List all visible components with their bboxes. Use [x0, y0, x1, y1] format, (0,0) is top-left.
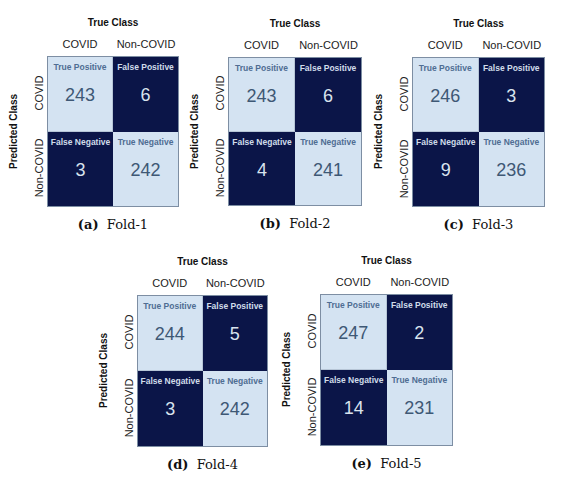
row-label-covid: COVID: [123, 297, 135, 367]
true-class-axis-title: True Class: [228, 18, 362, 29]
predicted-class-axis-title: Predicted Class: [373, 82, 384, 182]
cell-value: 3: [479, 86, 545, 107]
predicted-class-axis-title: Predicted Class: [8, 81, 19, 181]
panel-caption: (e) Fold-5: [320, 456, 453, 471]
cell-tag: False Positive: [387, 300, 453, 310]
cell-tag: True Negative: [387, 375, 453, 385]
cell-value: 3: [138, 399, 203, 420]
true-class-axis-title: True Class: [137, 256, 268, 267]
cell-false-positive: False Positive 6: [113, 57, 178, 132]
true-class-axis-title: True Class: [412, 18, 545, 29]
column-label-non-covid: Non-COVID: [479, 39, 546, 51]
cell-true-negative: True Negative 242: [113, 132, 178, 207]
caption-letter: (d): [167, 457, 188, 472]
cell-tag: False Positive: [203, 301, 268, 311]
cell-value: 4: [229, 160, 295, 181]
confusion-matrix-grid: True Positive 244 False Positive 5 False…: [137, 295, 268, 447]
row-label-non-covid: Non-COVID: [33, 133, 45, 203]
cell-false-positive: False Positive 2: [387, 295, 453, 370]
cell-tag: True Negative: [479, 137, 545, 147]
cell-false-positive: False Positive 3: [479, 58, 545, 132]
cell-false-negative: False Negative 3: [48, 132, 113, 207]
panel-caption: (c) Fold-3: [412, 217, 545, 232]
cell-value: 242: [203, 399, 268, 420]
caption-letter: (e): [351, 456, 372, 471]
cell-tag: True Positive: [138, 301, 202, 311]
panel-caption: (b) Fold-2: [228, 216, 362, 231]
cell-tag: True Negative: [203, 376, 268, 386]
cell-false-negative: False Negative 14: [321, 370, 387, 445]
cell-true-negative: True Negative 231: [387, 370, 453, 445]
cell-true-positive: True Positive 243: [48, 57, 113, 132]
row-label-covid: COVID: [398, 59, 410, 129]
cell-false-positive: False Positive 5: [203, 296, 268, 371]
caption-letter: (c): [444, 217, 464, 232]
row-label-non-covid: Non-COVID: [398, 134, 410, 204]
panel-caption: (d) Fold-4: [137, 457, 268, 472]
column-label-covid: COVID: [47, 38, 113, 50]
cell-value: 14: [321, 398, 387, 419]
column-label-covid: COVID: [320, 276, 387, 288]
caption-text: Fold-2: [289, 216, 330, 231]
column-label-non-covid: Non-COVID: [113, 38, 179, 50]
cell-value: 247: [321, 323, 386, 344]
confusion-matrix-grid: True Positive 243 False Positive 6 False…: [228, 57, 362, 206]
cell-tag: True Positive: [321, 300, 386, 310]
column-label-covid: COVID: [228, 39, 295, 51]
row-label-non-covid: Non-COVID: [214, 133, 226, 203]
row-label-non-covid: Non-COVID: [123, 373, 135, 443]
cell-value: 246: [413, 86, 478, 107]
cell-value: 244: [138, 324, 202, 345]
row-label-covid: COVID: [33, 58, 45, 128]
caption-letter: (b): [260, 216, 281, 231]
cell-true-negative: True Negative 241: [295, 132, 361, 206]
cell-tag: False Negative: [321, 375, 387, 385]
cell-true-negative: True Negative 242: [203, 371, 268, 446]
caption-text: Fold-1: [107, 217, 148, 232]
cell-value: 242: [113, 160, 178, 181]
cell-tag: False Negative: [229, 137, 295, 147]
cell-value: 243: [229, 86, 294, 107]
cell-value: 241: [295, 160, 361, 181]
row-label-covid: COVID: [214, 58, 226, 128]
confusion-matrix-grid: True Positive 246 False Positive 3 False…: [412, 57, 545, 207]
row-label-non-covid: Non-COVID: [306, 372, 318, 442]
cell-false-negative: False Negative 3: [138, 371, 203, 446]
cell-tag: True Negative: [295, 137, 361, 147]
cell-false-negative: False Negative 4: [229, 132, 295, 206]
cell-value: 5: [203, 324, 268, 345]
cell-value: 236: [479, 160, 545, 181]
cell-value: 231: [387, 398, 453, 419]
cell-tag: True Negative: [113, 137, 178, 147]
cell-true-positive: True Positive 243: [229, 58, 295, 132]
confusion-matrix-grid: True Positive 247 False Positive 2 False…: [320, 294, 453, 446]
caption-text: Fold-4: [197, 457, 238, 472]
column-label-covid: COVID: [137, 277, 203, 289]
column-label-non-covid: Non-COVID: [203, 277, 269, 289]
cell-true-positive: True Positive 247: [321, 295, 387, 370]
cell-false-positive: False Positive 6: [295, 58, 361, 132]
true-class-axis-title: True Class: [47, 17, 179, 28]
confusion-matrix-grid: True Positive 243 False Positive 6 False…: [47, 56, 179, 207]
caption-text: Fold-5: [380, 456, 421, 471]
cell-value: 6: [113, 85, 178, 106]
cell-true-positive: True Positive 244: [138, 296, 203, 371]
cell-tag: True Positive: [48, 62, 112, 72]
predicted-class-axis-title: Predicted Class: [98, 321, 109, 421]
cell-value: 9: [413, 160, 479, 181]
cell-value: 3: [48, 160, 113, 181]
cell-tag: True Positive: [229, 63, 294, 73]
true-class-axis-title: True Class: [320, 255, 453, 266]
cell-value: 2: [387, 323, 453, 344]
cell-tag: False Negative: [138, 376, 203, 386]
column-label-covid: COVID: [412, 39, 479, 51]
column-label-non-covid: Non-COVID: [387, 276, 454, 288]
cell-tag: False Positive: [479, 63, 545, 73]
column-label-non-covid: Non-COVID: [295, 39, 362, 51]
cell-value: 243: [48, 85, 112, 106]
cell-tag: False Negative: [413, 137, 479, 147]
cell-tag: False Positive: [295, 63, 361, 73]
predicted-class-axis-title: Predicted Class: [189, 81, 200, 181]
panel-caption: (a) Fold-1: [47, 217, 179, 232]
cell-tag: False Positive: [113, 62, 178, 72]
